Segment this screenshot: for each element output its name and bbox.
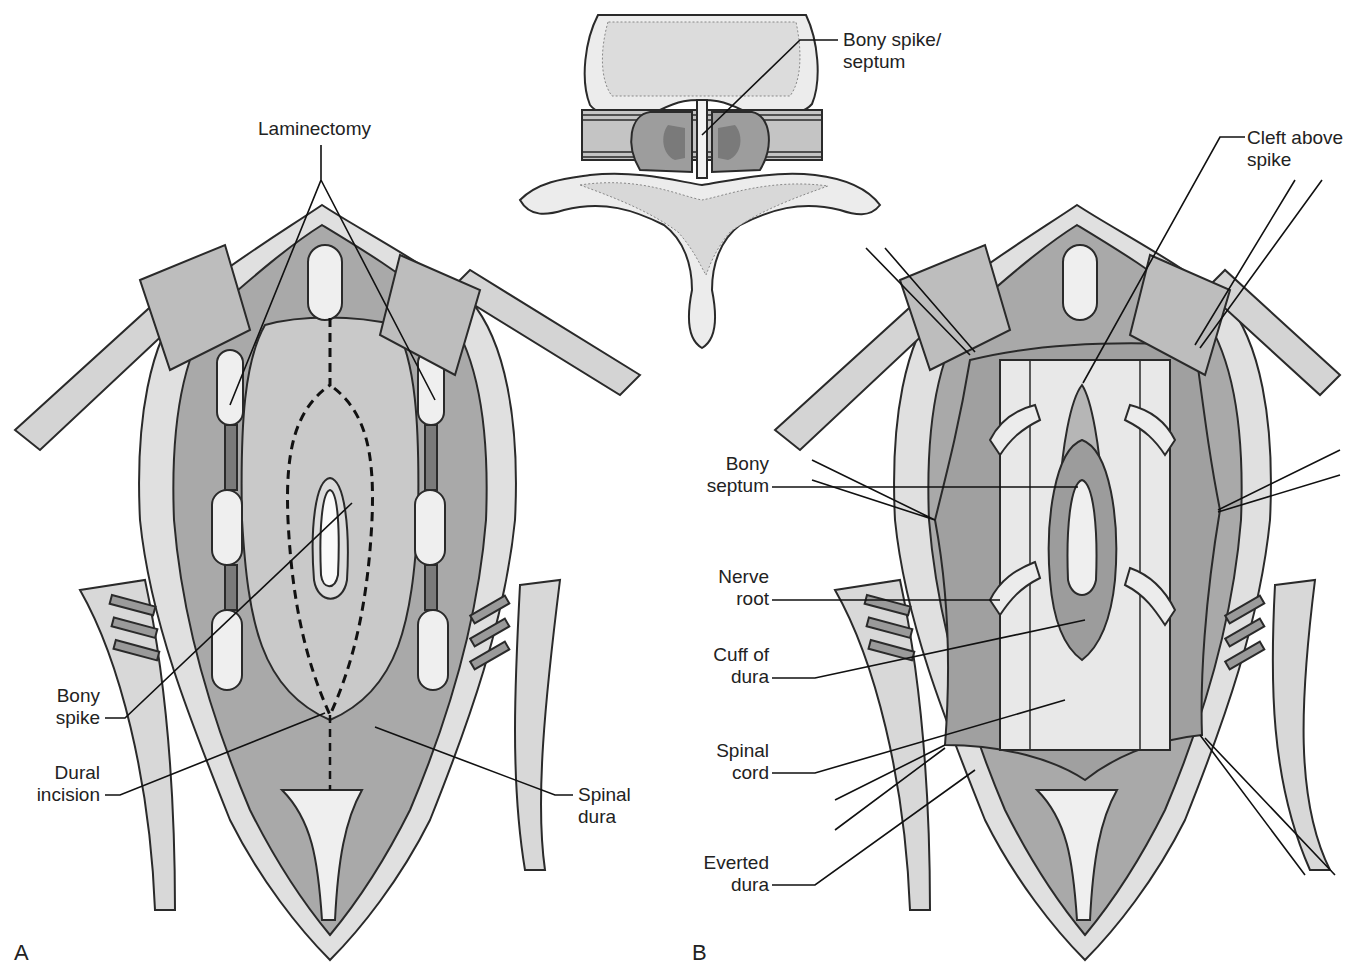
diagram-artwork (0, 0, 1357, 979)
label-everted-dura: Everted dura (680, 852, 769, 896)
label-dural-incision: Dural incision (20, 762, 100, 806)
panel-label-b: B (692, 940, 707, 966)
label-bony-septum: Bony septum (680, 453, 769, 497)
label-nerve-root: Nerve root (680, 566, 769, 610)
label-spinal-cord: Spinal cord (680, 740, 769, 784)
label-cleft-above-spike: Cleft above spike (1247, 127, 1343, 171)
vertebra-cross-section (520, 15, 880, 348)
panel-label-a: A (14, 940, 29, 966)
panel-a-surgical-view (15, 205, 640, 960)
label-bony-spike: Bony spike (40, 685, 100, 729)
label-bony-spike-septum: Bony spike/ septum (843, 29, 941, 73)
panel-b-surgical-view (775, 205, 1340, 960)
label-laminectomy: Laminectomy (258, 118, 371, 140)
label-spinal-dura: Spinal dura (578, 784, 631, 828)
label-cuff-of-dura: Cuff of dura (680, 644, 769, 688)
